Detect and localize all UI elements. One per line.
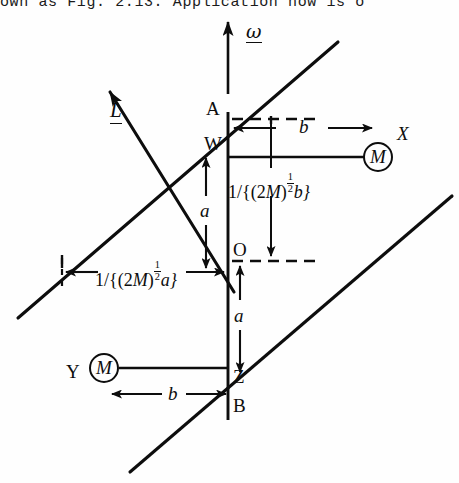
formula-b-exp-den: 2	[287, 184, 294, 195]
dimension-label-a-upper: a	[200, 201, 210, 220]
formula-b-exponent: 12	[287, 172, 294, 194]
dimension-label-b-lower: b	[168, 384, 178, 403]
label-omega-vector: ω	[246, 22, 262, 41]
line-up-slope-lower	[130, 196, 452, 472]
dimension-label-b-upper: b	[299, 117, 309, 136]
mass-M-lower-label: M	[96, 357, 112, 379]
mass-M-upper-label: M	[370, 146, 386, 168]
omega-glyph: ω	[246, 20, 262, 43]
annotation-offset-b-formula: 1/{(2M)12b}	[228, 172, 310, 201]
formula-b-exp-num: 1	[287, 172, 294, 184]
point-label-A: A	[206, 99, 220, 118]
formula-a-exp-den: 2	[154, 272, 161, 283]
point-label-Z: Z	[233, 367, 245, 386]
formula-a-var: M	[133, 270, 148, 290]
point-label-B: B	[233, 396, 246, 415]
annotation-offset-a-formula: 1/{(2M)12a}	[95, 260, 177, 289]
formula-a-exponent: 12	[154, 260, 161, 282]
axis-label-Y: Y	[66, 362, 80, 381]
formula-b-tail: b}	[294, 182, 310, 202]
dimension-label-a-lower: a	[234, 306, 244, 325]
point-label-W: W	[204, 134, 222, 153]
figure-page: own as Fig. 2.13. Application now is o	[0, 0, 459, 483]
formula-a-exp-num: 1	[154, 260, 161, 272]
label-L-vector: L	[110, 100, 122, 121]
mass-M-upper-right: M	[363, 142, 393, 172]
L-glyph: L	[110, 98, 122, 124]
mechanics-diagram-svg	[0, 0, 459, 483]
mass-M-lower-left: M	[89, 353, 119, 383]
formula-a-lead: 1/{(2	[95, 270, 133, 290]
formula-b-var: M	[266, 182, 281, 202]
point-label-O: O	[233, 240, 247, 259]
axis-label-X: X	[397, 124, 409, 143]
formula-a-tail: a}	[161, 270, 177, 290]
formula-b-lead: 1/{(2	[228, 182, 266, 202]
